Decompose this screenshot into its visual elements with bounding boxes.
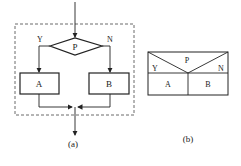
caption-a: (a) (68, 139, 78, 149)
no-branch (102, 46, 110, 72)
decision-label: P (72, 42, 77, 52)
merge-left (39, 94, 72, 107)
ns-yes-label: Y (152, 64, 158, 73)
ns-process-b-label: B (205, 80, 210, 89)
caption-b: (b) (183, 134, 194, 144)
ns-no-label: N (218, 64, 224, 73)
ns-process-a-label: A (165, 80, 171, 89)
process-b-label: B (106, 79, 112, 89)
diagram-canvas: P Y N A B (a) P Y N A B (b) (0, 0, 241, 166)
merge-right (78, 94, 110, 107)
yes-label: Y (37, 35, 43, 44)
process-a-label: A (36, 79, 43, 89)
ns-condition-label: P (185, 56, 190, 65)
yes-branch (39, 46, 50, 72)
ns-diagram-b: P Y N A B (b) (148, 52, 228, 144)
no-label: N (107, 35, 113, 44)
flowchart-a: P Y N A B (a) (15, 2, 134, 149)
